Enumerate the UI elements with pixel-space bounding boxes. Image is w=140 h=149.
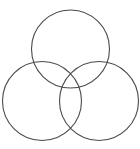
three-circles-diagram <box>0 0 140 149</box>
bottom-left-circle <box>3 62 82 141</box>
bottom-right-circle <box>60 62 139 141</box>
top-circle <box>32 10 110 88</box>
figure-canvas <box>0 0 140 149</box>
